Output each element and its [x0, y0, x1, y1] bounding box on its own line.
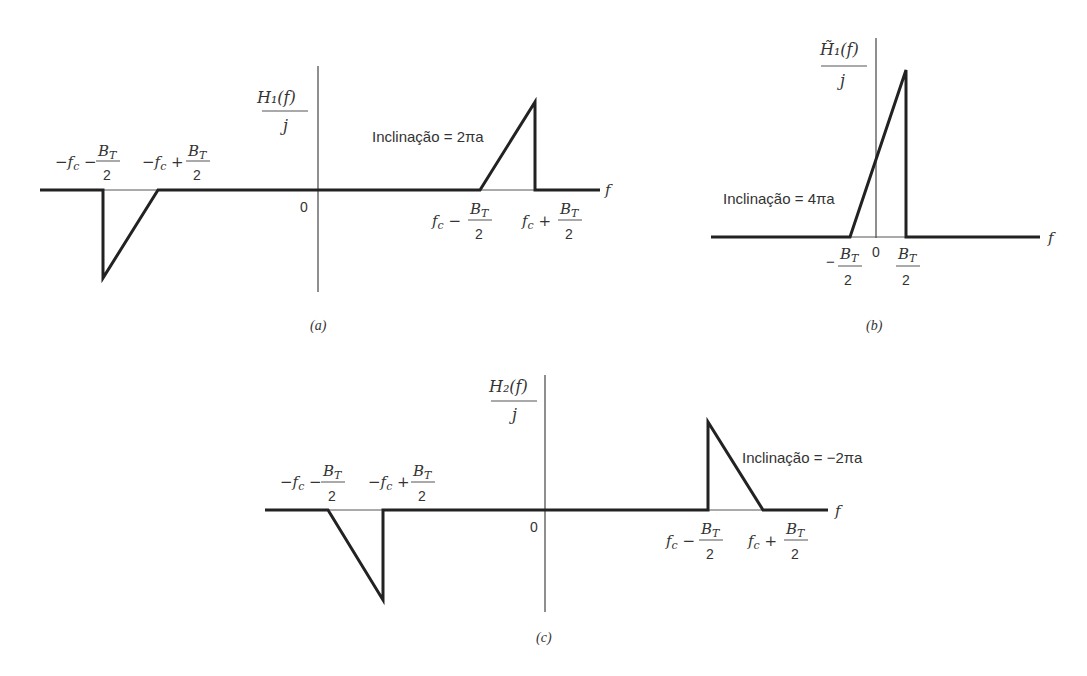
svg-text:BT: BT	[785, 520, 806, 540]
svg-text:2: 2	[103, 167, 111, 183]
panel-c: H₂(f) j 0 f Inclinação = −2πa −fc − BT 2…	[265, 375, 863, 646]
x-axis-label: f	[1047, 229, 1056, 247]
svg-text:2: 2	[844, 272, 852, 288]
caption-a: (a)	[310, 318, 327, 334]
tick-label-neg-fc-plus: −fc + BT 2	[368, 462, 435, 504]
y-axis-label-den: j	[509, 405, 517, 424]
tick-label-fc-minus: fc − BT 2	[431, 200, 492, 242]
slope-label: Inclinação = −2πa	[742, 449, 863, 466]
svg-text:−fc −: −fc −	[55, 153, 97, 173]
y-axis-label-den: j	[280, 116, 288, 135]
tick-label-bt-half: BT 2	[896, 245, 920, 288]
y-axis-label-num: H₁(f)	[256, 88, 296, 107]
y-axis-label-num: H₂(f)	[488, 377, 528, 396]
tick-label-fc-minus: fc − BT 2	[665, 520, 723, 562]
svg-text:BT: BT	[322, 462, 343, 482]
x-axis-label: f	[834, 502, 843, 520]
svg-text:2: 2	[328, 488, 336, 504]
svg-text:fc −: fc −	[665, 532, 695, 552]
svg-text:−fc +: −fc +	[368, 473, 410, 493]
caption-b: (b)	[866, 318, 883, 334]
tick-label-fc-plus: fc + BT 2	[747, 520, 808, 562]
panel-b: H̃₁(f) j 0 f Inclinação = 4πa − BT 2 BT …	[711, 38, 1056, 334]
y-axis-label-num: H̃₁(f)	[819, 40, 859, 59]
slope-label: Inclinação = 2πa	[372, 128, 484, 145]
figure: H₁(f) j 0 f Inclinação = 2πa −fc − BT 2 …	[0, 0, 1087, 676]
svg-text:BT: BT	[187, 142, 208, 162]
svg-text:2: 2	[565, 226, 573, 242]
svg-text:BT: BT	[412, 462, 433, 482]
svg-text:2: 2	[475, 226, 483, 242]
tick-label-neg-fc-minus: −fc − BT 2	[55, 142, 120, 183]
panel-a: H₁(f) j 0 f Inclinação = 2πa −fc − BT 2 …	[40, 66, 613, 334]
svg-text:−fc −: −fc −	[280, 473, 322, 493]
svg-text:BT: BT	[897, 245, 918, 265]
origin-label: 0	[530, 519, 538, 535]
svg-text:2: 2	[418, 488, 426, 504]
svg-text:2: 2	[193, 167, 201, 183]
svg-text:BT: BT	[700, 520, 721, 540]
tick-label-neg-fc-plus: −fc + BT 2	[142, 142, 210, 183]
svg-text:−: −	[826, 253, 835, 270]
svg-text:fc +: fc +	[747, 532, 777, 552]
svg-text:−fc +: −fc +	[142, 153, 184, 173]
svg-text:BT: BT	[839, 245, 860, 265]
svg-text:BT: BT	[97, 142, 118, 162]
svg-text:fc +: fc +	[521, 212, 551, 232]
caption-c: (c)	[536, 630, 552, 646]
svg-text:2: 2	[902, 272, 910, 288]
tick-label-neg-bt-half: − BT 2	[826, 245, 862, 288]
tick-label-fc-plus: fc + BT 2	[521, 200, 582, 242]
origin-label: 0	[872, 244, 880, 260]
svg-text:BT: BT	[469, 200, 490, 220]
origin-label: 0	[300, 199, 308, 215]
svg-text:fc −: fc −	[431, 212, 461, 232]
svg-text:2: 2	[706, 546, 714, 562]
svg-text:2: 2	[791, 546, 799, 562]
y-axis-label-den: j	[837, 71, 845, 90]
tick-label-neg-fc-minus: −fc − BT 2	[280, 462, 345, 504]
slope-label: Inclinação = 4πa	[723, 190, 835, 207]
svg-text:BT: BT	[559, 200, 580, 220]
x-axis-label: f	[604, 181, 613, 199]
